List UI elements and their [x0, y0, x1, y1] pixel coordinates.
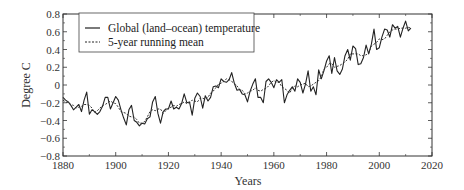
legend-label-running-mean: 5-year running mean: [108, 36, 204, 49]
y-axis-label: Degree C: [19, 62, 33, 108]
y-tick-label: −0.4: [40, 115, 60, 127]
x-axis-label: Years: [235, 174, 262, 188]
x-tick-label: 2000: [368, 159, 391, 171]
y-tick-label: −0.2: [40, 97, 60, 109]
x-tick-label: 1940: [210, 159, 233, 171]
y-tick-label: 0.2: [46, 61, 60, 73]
x-tick-label: 2020: [421, 159, 444, 171]
y-tick-label: 0.4: [46, 44, 60, 56]
y-tick-label: 0.6: [46, 26, 60, 38]
x-tick-label: 1880: [52, 159, 75, 171]
x-tick-label: 1960: [263, 159, 286, 171]
x-tick-label: 1900: [105, 159, 128, 171]
chart: −0.8−0.6−0.4−0.200.20.40.60.8 1880190019…: [0, 0, 464, 190]
x-tick-label: 1980: [316, 159, 339, 171]
y-tick-label: −0.6: [40, 132, 60, 144]
y-tick-label: 0: [55, 79, 61, 91]
x-tick-label: 1920: [157, 159, 180, 171]
legend: Global (land–ocean) temperature 5-year r…: [79, 13, 260, 52]
y-tick-label: 0.8: [46, 8, 60, 20]
legend-label-global: Global (land–ocean) temperature: [108, 22, 260, 35]
